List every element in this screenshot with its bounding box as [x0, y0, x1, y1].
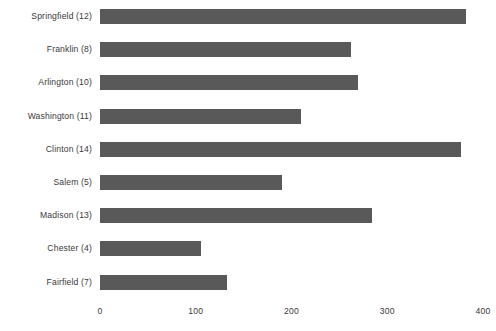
bar-row: Franklin (8) [0, 42, 496, 75]
bar[interactable] [100, 241, 201, 256]
category-label: Springfield (12) [0, 9, 92, 24]
category-label: Chester (4) [0, 241, 92, 256]
bar[interactable] [100, 208, 372, 223]
category-label: Clinton (14) [0, 142, 92, 157]
category-label: Madison (13) [0, 208, 92, 223]
bar[interactable] [100, 75, 358, 90]
bar[interactable] [100, 275, 227, 290]
bar-row: Salem (5) [0, 175, 496, 208]
x-tick-label: 300 [380, 306, 395, 316]
x-tick-label: 400 [476, 306, 491, 316]
category-label: Arlington (10) [0, 75, 92, 90]
bar[interactable] [100, 142, 461, 157]
bar[interactable] [100, 42, 351, 57]
bar-row: Arlington (10) [0, 75, 496, 108]
bar-chart: Springfield (12)Franklin (8)Arlington (1… [0, 0, 496, 331]
category-label: Washington (11) [0, 109, 92, 124]
x-axis: 0100200300400 [0, 300, 496, 331]
category-label: Fairfield (7) [0, 275, 92, 290]
bar-row: Springfield (12) [0, 9, 496, 42]
bar-row: Washington (11) [0, 109, 496, 142]
bar[interactable] [100, 109, 301, 124]
bar-row: Chester (4) [0, 241, 496, 274]
plot-area: Springfield (12)Franklin (8)Arlington (1… [0, 0, 496, 300]
bar[interactable] [100, 9, 466, 24]
bar-row: Madison (13) [0, 208, 496, 241]
category-label: Salem (5) [0, 175, 92, 190]
bar-row: Clinton (14) [0, 142, 496, 175]
x-tick-label: 100 [188, 306, 203, 316]
category-label: Franklin (8) [0, 42, 92, 57]
x-tick-label: 200 [284, 306, 299, 316]
x-tick-label: 0 [98, 306, 103, 316]
bar[interactable] [100, 175, 282, 190]
